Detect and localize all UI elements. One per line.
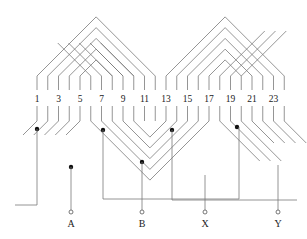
slot-label: 9 — [121, 94, 126, 104]
terminal-label-a: A — [67, 218, 75, 229]
terminal-y — [276, 210, 280, 214]
bottom-end-stub — [66, 121, 80, 135]
bottom-end-connection — [123, 121, 177, 148]
terminal-a — [69, 210, 73, 214]
top-end-stub — [90, 43, 123, 76]
terminal-b — [140, 210, 144, 214]
slot-label: 19 — [226, 94, 236, 104]
slot-label: 5 — [78, 94, 83, 104]
bottom-end-stub — [23, 121, 37, 135]
slot-label: 23 — [269, 94, 279, 104]
terminal-label-b: B — [139, 218, 146, 229]
bottom-end-stub — [241, 121, 281, 161]
top-end-connection — [48, 28, 145, 76]
bottom-end-connection — [91, 121, 209, 180]
slot-label: 7 — [99, 94, 104, 104]
terminal-x — [203, 210, 207, 214]
bottom-end-stub — [274, 121, 296, 143]
top-end-connection — [80, 60, 112, 76]
lead-wire — [15, 129, 37, 205]
terminal-label-y: Y — [274, 218, 281, 229]
slot-label: 1 — [35, 94, 40, 104]
bottom-end-connection — [134, 121, 166, 137]
slot-label: 3 — [56, 94, 61, 104]
bottom-end-connection — [102, 121, 199, 169]
bottom-end-stub — [284, 121, 306, 143]
top-end-stub — [220, 31, 265, 76]
slot-label: 11 — [140, 94, 149, 104]
bottom-end-connection — [112, 121, 187, 159]
slot-label: 21 — [247, 94, 257, 104]
top-end-connection — [37, 17, 155, 76]
winding-diagram: 1357911131517192123ABXY — [0, 0, 307, 239]
bottom-end-stub — [263, 121, 285, 143]
top-end-connection — [177, 28, 274, 76]
top-end-connection — [166, 17, 284, 76]
slot-label: 15 — [183, 94, 193, 104]
slot-label: 13 — [161, 94, 171, 104]
top-end-stub — [241, 31, 286, 76]
top-end-stub — [101, 43, 134, 76]
bottom-end-stub — [252, 121, 274, 143]
top-end-connection — [209, 60, 241, 76]
bottom-end-stub — [220, 121, 260, 161]
bottom-end-stub — [55, 121, 69, 135]
bottom-end-stub — [45, 121, 59, 135]
terminal-label-x: X — [201, 218, 209, 229]
slot-label: 17 — [204, 94, 214, 104]
winding-diagram-svg: 1357911131517192123ABXY — [0, 0, 307, 239]
connection-dot — [235, 125, 239, 129]
top-end-stub — [79, 43, 112, 76]
top-end-stub — [231, 31, 276, 76]
